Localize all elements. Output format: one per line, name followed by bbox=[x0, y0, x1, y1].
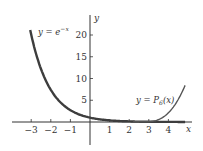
exp-curve bbox=[30, 30, 185, 122]
x-tick-label: 1 bbox=[107, 125, 113, 135]
x-tick-label: 4 bbox=[166, 125, 172, 135]
p6-curve-label: y = P6(x) bbox=[135, 95, 174, 106]
chart-svg: −3−2−11234 5101520 x y y = e−x y = P6(x) bbox=[0, 0, 203, 151]
exp-curve-label: y = e−x bbox=[37, 25, 69, 37]
x-tick-label: 2 bbox=[126, 125, 132, 135]
y-axis-label: y bbox=[93, 13, 100, 23]
chart: −3−2−11234 5101520 x y y = e−x y = P6(x) bbox=[0, 0, 203, 151]
y-tick-label: 15 bbox=[76, 52, 88, 62]
x-tick-label: 3 bbox=[146, 125, 152, 135]
x-axis-label: x bbox=[186, 124, 191, 134]
x-tick-label: −1 bbox=[64, 125, 77, 135]
x-tick-label: −3 bbox=[25, 125, 39, 135]
y-tick-label: 5 bbox=[81, 95, 87, 105]
y-tick-label: 10 bbox=[76, 74, 88, 84]
x-tick-label: −2 bbox=[44, 125, 57, 135]
y-tick-label: 20 bbox=[76, 30, 88, 40]
